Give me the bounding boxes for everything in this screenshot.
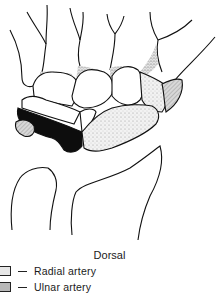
radial-swatch-icon <box>0 266 11 276</box>
legend-item-radial: Radial artery <box>0 263 96 279</box>
legend-label: Radial artery <box>34 265 96 277</box>
ulnar-swatch-icon <box>0 282 11 292</box>
radius-ulna <box>11 146 161 240</box>
legend-item-ulnar: Ulnar artery <box>0 279 96 294</box>
trapezium-ulnar-hatch <box>162 79 182 112</box>
dash-icon <box>18 287 27 288</box>
legend-label: Ulnar artery <box>34 281 91 293</box>
dash-icon <box>18 271 27 272</box>
legend: Radial artery Ulnar artery <box>0 263 96 294</box>
view-caption-label: Dorsal <box>0 249 219 261</box>
